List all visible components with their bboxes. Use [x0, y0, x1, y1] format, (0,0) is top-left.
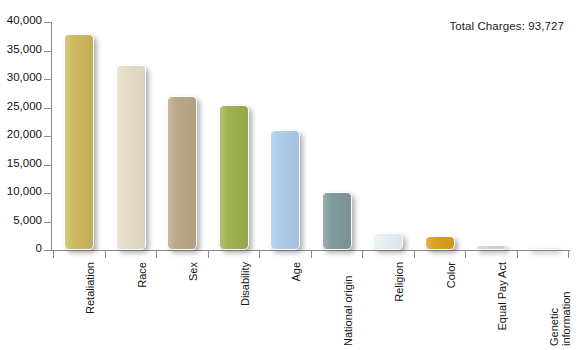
y-axis-tick-label: 0 [0, 242, 42, 254]
x-axis-label-national-origin: National origin [342, 262, 354, 346]
y-axis-tick [44, 193, 52, 194]
bar-gloss [323, 193, 351, 249]
y-axis-tick [44, 222, 52, 223]
x-axis-tick [208, 251, 209, 258]
x-axis-tick [362, 251, 363, 258]
y-axis-tick-label: 10,000 [0, 185, 42, 197]
bar-color[interactable] [425, 236, 455, 250]
x-axis-label-color: Color [445, 262, 457, 288]
x-axis-tick [156, 251, 157, 258]
y-axis-tick-label: 5,000 [0, 214, 42, 226]
bar-gloss [477, 246, 505, 249]
x-axis-tick [259, 251, 260, 258]
x-axis-tick [568, 251, 569, 258]
bar-gloss [374, 234, 402, 249]
bar-race[interactable] [116, 65, 146, 250]
y-axis-tick [44, 136, 52, 137]
x-axis-label-equal-pay-act: Equal Pay Act [496, 262, 508, 331]
bar-gloss [117, 66, 145, 249]
bar-national-origin[interactable] [322, 192, 352, 250]
x-axis-label-age: Age [290, 262, 302, 282]
y-axis-tick-label: 40,000 [0, 14, 42, 26]
bar-retaliation[interactable] [64, 34, 94, 250]
x-axis-label-race: Race [136, 262, 148, 288]
bar-sex[interactable] [167, 96, 197, 250]
bar-gloss [529, 248, 557, 249]
y-axis-tick-label: 25,000 [0, 100, 42, 112]
bar-gloss [271, 131, 299, 249]
x-axis-tick [53, 251, 54, 258]
bar-gloss [65, 35, 93, 249]
x-axis-label-religion: Religion [393, 262, 405, 302]
x-axis-tick [465, 251, 466, 258]
y-axis-tick [44, 250, 52, 251]
y-axis-tick [44, 165, 52, 166]
bar-chart: Total Charges: 93,727 40,00035,00030,000… [0, 0, 578, 350]
y-axis-tick-label: 20,000 [0, 128, 42, 140]
x-axis-tick [105, 251, 106, 258]
x-axis-tick [414, 251, 415, 258]
y-axis-tick-label: 30,000 [0, 71, 42, 83]
bar-genetic-information[interactable] [528, 247, 558, 250]
bar-gloss [220, 106, 248, 249]
y-axis-tick-label: 35,000 [0, 43, 42, 55]
x-axis-label-retaliation: Retaliation [84, 262, 96, 314]
bar-age[interactable] [270, 130, 300, 250]
y-axis-tick-label: 15,000 [0, 157, 42, 169]
y-axis-tick [44, 51, 52, 52]
y-axis-tick [44, 79, 52, 80]
bar-gloss [426, 237, 454, 249]
x-axis-label-disability: Disability [239, 262, 251, 306]
bar-gloss [168, 97, 196, 249]
y-axis-tick [44, 22, 52, 23]
x-axis-tick [311, 251, 312, 258]
x-axis-label-genetic-information: Genetic information [548, 262, 572, 346]
bar-religion[interactable] [373, 233, 403, 250]
plot-area [52, 22, 570, 250]
x-axis-tick [517, 251, 518, 258]
x-axis-label-sex: Sex [187, 262, 199, 281]
bar-disability[interactable] [219, 105, 249, 250]
y-axis-tick [44, 108, 52, 109]
bar-equal-pay-act[interactable] [476, 245, 506, 250]
